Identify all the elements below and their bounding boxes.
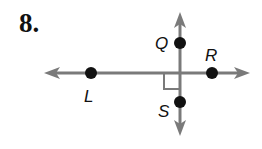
label-L: L: [84, 87, 93, 106]
point-L: [85, 67, 97, 79]
point-S: [174, 96, 186, 108]
point-R: [206, 67, 218, 79]
label-R: R: [205, 46, 217, 65]
right-angle-marker: [164, 73, 180, 89]
label-Q: Q: [155, 34, 168, 53]
perpendicular-lines-diagram: Q R L S: [0, 0, 262, 149]
horizontal-line: [44, 67, 250, 79]
label-S: S: [158, 102, 170, 121]
point-Q: [174, 37, 186, 49]
